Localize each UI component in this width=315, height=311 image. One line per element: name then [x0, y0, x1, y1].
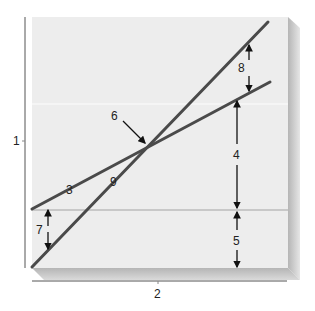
- label-3: 3: [66, 183, 73, 197]
- label-8: 8: [238, 61, 245, 75]
- label-4: 4: [233, 148, 240, 162]
- label-6: 6: [111, 109, 118, 123]
- label-7: 7: [36, 223, 43, 237]
- label-5: 5: [233, 234, 240, 248]
- label-1: 1: [13, 134, 20, 148]
- diagram-canvas: 1 2 3 4 5 6 7 8 9: [0, 0, 315, 311]
- label-2: 2: [154, 287, 161, 301]
- label-9: 9: [110, 175, 117, 189]
